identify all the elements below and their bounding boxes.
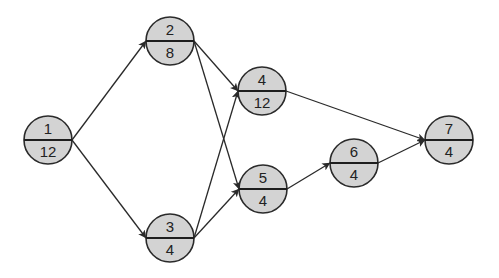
node-duration: 4 [259, 192, 267, 209]
node-1: 112 [24, 116, 72, 164]
edge-6-to-7 [378, 140, 425, 163]
node-label: 7 [445, 120, 453, 137]
nodes: 1122834412546474 [24, 17, 473, 262]
node-3: 34 [146, 214, 194, 262]
node-duration: 4 [445, 143, 453, 160]
node-label: 5 [259, 169, 267, 186]
node-duration: 12 [40, 143, 57, 160]
node-label: 6 [350, 143, 358, 160]
edge-2-to-5 [194, 41, 239, 189]
network-diagram: 1122834412546474 [0, 0, 499, 278]
edge-2-to-4 [194, 41, 238, 91]
node-7: 74 [425, 116, 473, 164]
node-label: 3 [166, 218, 174, 235]
node-duration: 12 [254, 94, 271, 111]
node-2: 28 [146, 17, 194, 65]
edge-1-to-2 [72, 41, 146, 140]
edge-1-to-3 [72, 140, 146, 238]
node-label: 2 [166, 21, 174, 38]
node-duration: 4 [166, 241, 174, 258]
node-label: 4 [258, 71, 266, 88]
edge-5-to-6 [287, 163, 330, 189]
node-duration: 4 [350, 166, 358, 183]
node-4: 412 [238, 67, 286, 115]
edge-4-to-7 [286, 91, 425, 140]
node-5: 54 [239, 165, 287, 213]
node-duration: 8 [166, 44, 174, 61]
node-6: 64 [330, 139, 378, 187]
node-label: 1 [44, 120, 52, 137]
